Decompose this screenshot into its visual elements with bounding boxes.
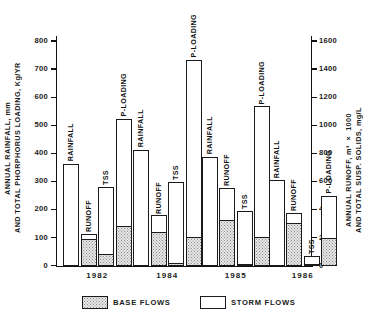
- bar-label-1985-runoff: RUNOFF: [223, 154, 231, 186]
- y-axis-left-title-line1: ANNUAL RAINFALL, mm: [3, 28, 12, 268]
- bar-label-1982-p-loading: P-LOADING: [120, 73, 128, 116]
- bar-1986-tss[interactable]: [304, 256, 320, 266]
- bar-label-1986-rainfall: RAINFALL: [273, 140, 281, 178]
- bar-base-flow-segment: [287, 223, 301, 265]
- bar-1986-p-loading[interactable]: [321, 196, 337, 266]
- tick-label-left-400: 400: [22, 149, 48, 157]
- tick-mark-right-1400: [312, 68, 317, 69]
- tick-mark-left-200: [51, 209, 56, 210]
- bar-label-1985-p-loading: P-LOADING: [258, 61, 266, 104]
- bar-1984-rainfall[interactable]: [133, 150, 149, 267]
- bar-label-1986-tss: TSS: [308, 239, 316, 254]
- bar-base-flow-segment: [82, 239, 96, 265]
- tick-label-left-600: 600: [22, 93, 48, 101]
- category-label-1985: 1985: [202, 271, 271, 280]
- y-axis-right-title-line2: AND TOTAL SUSP. SOLIDS, mg/L: [354, 70, 363, 270]
- bar-label-1985-rainfall: RAINFALL: [206, 116, 214, 154]
- tick-mark-left-400: [51, 153, 56, 154]
- bar-1985-rainfall[interactable]: [202, 157, 218, 266]
- bar-1982-p-loading[interactable]: [116, 119, 132, 266]
- tick-label-right-1400: 1400: [319, 65, 347, 73]
- bar-1982-tss[interactable]: [98, 187, 114, 266]
- tick-mark-right-800: [312, 153, 317, 154]
- legend: BASE FLOWSSTORM FLOWS: [82, 294, 312, 314]
- tick-label-left-100: 100: [22, 234, 48, 242]
- bar-label-1984-rainfall: RAINFALL: [137, 109, 145, 147]
- tick-label-left-0: 0: [22, 262, 48, 270]
- tick-label-left-500: 500: [22, 121, 48, 129]
- tick-label-left-200: 200: [22, 205, 48, 213]
- bar-label-1985-tss: TSS: [241, 194, 249, 209]
- y-axis-right-line: [311, 36, 312, 267]
- bar-base-flow-segment: [187, 237, 201, 265]
- bar-1986-rainfall[interactable]: [269, 180, 285, 266]
- bar-label-1986-runoff: RUNOFF: [290, 179, 298, 211]
- bar-1986-runoff[interactable]: [286, 213, 302, 266]
- tick-label-right-1200: 1200: [319, 93, 347, 101]
- tick-mark-right-600: [312, 181, 317, 182]
- bar-1984-runoff[interactable]: [151, 215, 167, 266]
- plot-area: RAINFALLRUNOFFTSSP-LOADINGRAINFALLRUNOFF…: [57, 38, 310, 266]
- bar-base-flow-segment: [305, 264, 319, 265]
- tick-mark-left-300: [51, 181, 56, 182]
- bar-1982-rainfall[interactable]: [63, 164, 79, 266]
- tick-mark-left-600: [51, 97, 56, 98]
- tick-mark-left-700: [51, 68, 56, 69]
- bar-1984-p-loading[interactable]: [186, 60, 202, 266]
- bar-label-1982-rainfall: RAINFALL: [67, 123, 75, 161]
- tick-label-right-800: 800: [319, 149, 347, 157]
- legend-swatch-base-flows: [82, 296, 108, 309]
- chart-figure: ANNUAL RAINFALL, mm AND TOTAL PHORPHORUS…: [0, 0, 374, 322]
- bar-label-1982-runoff: RUNOFF: [85, 200, 93, 232]
- tick-label-right-1000: 1000: [319, 121, 347, 129]
- y-axis-left-title-line2: AND TOTAL PHORPHORUS LOADING, Kg/YR: [13, 20, 22, 276]
- legend-label: BASE FLOWS: [113, 298, 171, 307]
- tick-mark-right-400: [312, 209, 317, 210]
- tick-label-left-800: 800: [22, 37, 48, 45]
- legend-swatch-storm-flows: [200, 296, 226, 309]
- tick-mark-right-1200: [312, 97, 317, 98]
- bar-1985-runoff[interactable]: [219, 188, 235, 266]
- bar-base-flow-segment: [169, 263, 183, 265]
- tick-mark-left-800: [51, 40, 56, 41]
- tick-mark-left-100: [51, 237, 56, 238]
- tick-label-left-700: 700: [22, 65, 48, 73]
- bar-base-flow-segment: [152, 232, 166, 265]
- legend-label: STORM FLOWS: [231, 298, 296, 307]
- legend-entry-storm-flows[interactable]: STORM FLOWS: [200, 296, 296, 309]
- bar-1984-tss[interactable]: [168, 182, 184, 266]
- bar-base-flow-segment: [238, 264, 252, 265]
- tick-mark-left-500: [51, 125, 56, 126]
- category-label-1982: 1982: [63, 271, 132, 280]
- bar-base-flow-segment: [220, 220, 234, 265]
- legend-entry-base-flows[interactable]: BASE FLOWS: [82, 296, 171, 309]
- bar-base-flow-segment: [117, 226, 131, 265]
- bar-1985-tss[interactable]: [237, 211, 253, 266]
- bar-label-1986-p-loading: P-LOADING: [325, 150, 333, 193]
- tick-label-left-300: 300: [22, 177, 48, 185]
- bar-label-1982-tss: TSS: [102, 170, 110, 185]
- bar-label-1984-tss: TSS: [172, 165, 180, 180]
- tick-mark-right-1000: [312, 125, 317, 126]
- bar-base-flow-segment: [99, 254, 113, 265]
- tick-mark-left-0: [51, 265, 56, 266]
- bar-1982-runoff[interactable]: [81, 234, 97, 266]
- tick-mark-right-200: [312, 237, 317, 238]
- bar-label-1984-p-loading: P-LOADING: [190, 14, 198, 57]
- bar-base-flow-segment: [322, 238, 336, 265]
- bar-label-1984-runoff: RUNOFF: [155, 182, 163, 214]
- tick-label-right-1600: 1600: [319, 37, 347, 45]
- tick-mark-right-1600: [312, 40, 317, 41]
- category-label-1986: 1986: [269, 271, 338, 280]
- bar-base-flow-segment: [255, 237, 269, 265]
- category-label-1984: 1984: [133, 271, 202, 280]
- tick-label-right-600: 600: [319, 177, 347, 185]
